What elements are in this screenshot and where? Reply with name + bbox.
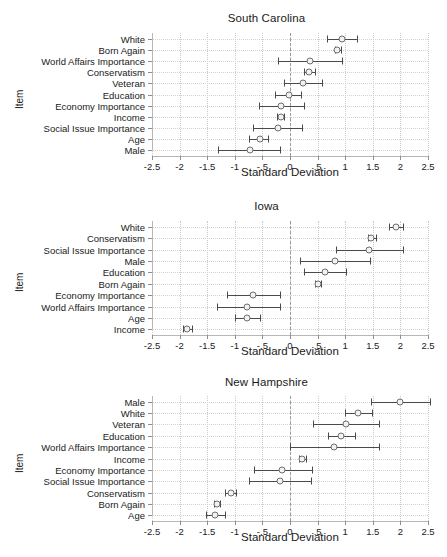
x-axis-tick-label: -2.5 <box>132 161 172 172</box>
confidence-interval-cap <box>259 102 260 109</box>
gridline-vertical <box>428 221 429 335</box>
confidence-interval-cap <box>249 478 250 485</box>
panel-title-text: South Carolina <box>228 12 305 24</box>
y-axis-line <box>152 396 153 515</box>
gridline-vertical <box>400 396 401 521</box>
data-point-marker <box>277 113 284 120</box>
x-axis-tick-label: -1 <box>215 526 255 537</box>
x-axis-label: Standard Deviation <box>152 166 428 178</box>
x-axis-line <box>152 521 428 522</box>
x-axis-tick <box>400 521 401 525</box>
gridline-vertical <box>428 396 429 521</box>
panel-title: Iowa <box>0 200 447 212</box>
plot-area: MaleWhiteVeteranEducationWorld Affairs I… <box>152 396 428 521</box>
panel-title: New Hampshire <box>0 376 447 388</box>
gridline-horizontal <box>152 150 428 151</box>
confidence-interval-cap <box>301 91 302 98</box>
y-axis-tick <box>148 413 152 414</box>
gridline-vertical <box>290 221 291 335</box>
gridline-horizontal <box>152 72 428 73</box>
data-point-marker <box>299 80 306 87</box>
y-axis-tick <box>148 295 152 296</box>
y-axis-tick <box>148 72 152 73</box>
confidence-interval-cap <box>372 410 373 417</box>
y-axis-tick <box>148 481 152 482</box>
zero-reference-line <box>290 396 291 521</box>
confidence-interval-cap <box>284 80 285 87</box>
x-axis-tick <box>345 521 346 525</box>
chart-panel: IowaItemWhiteConservatismSocial Issue Im… <box>0 0 447 557</box>
gridline-vertical <box>235 221 236 335</box>
confidence-interval-bar <box>259 106 304 107</box>
x-axis-tick <box>318 521 319 525</box>
y-axis-tick-label: Male <box>0 255 145 266</box>
confidence-interval-cap <box>379 421 380 428</box>
confidence-interval-cap <box>280 292 281 299</box>
y-axis-tick <box>148 50 152 51</box>
x-axis-tick-label: 0 <box>270 526 310 537</box>
x-axis-tick <box>290 335 291 339</box>
x-axis-tick-label: -1.5 <box>187 161 227 172</box>
gridline-horizontal <box>152 318 428 319</box>
gridline-horizontal <box>152 284 428 285</box>
gridline-vertical <box>373 396 374 521</box>
panel-title-text: Iowa <box>254 200 279 212</box>
x-axis-tick-label: -.5 <box>242 161 282 172</box>
confidence-interval-bar <box>206 515 225 516</box>
x-axis-tick-label: 1.5 <box>353 340 393 351</box>
confidence-interval-cap <box>322 80 323 87</box>
x-axis-tick-label: 0 <box>270 340 310 351</box>
confidence-interval-cap <box>430 398 431 405</box>
y-axis-tick-label: White <box>0 408 145 419</box>
y-axis-tick-label: Veteran <box>0 78 145 89</box>
chart-panel: New HampshireItemMaleWhiteVeteranEducati… <box>0 0 447 557</box>
confidence-interval-bar <box>225 493 236 494</box>
confidence-interval-cap <box>315 280 316 287</box>
x-axis-tick-label: -2 <box>160 161 200 172</box>
x-axis-tick-label: -.5 <box>242 340 282 351</box>
confidence-interval-cap <box>235 314 236 321</box>
y-axis-tick-label: Age <box>0 510 145 521</box>
gridline-vertical <box>345 33 346 156</box>
data-point-marker <box>392 223 399 230</box>
y-axis-tick <box>148 250 152 251</box>
confidence-interval-cap <box>253 125 254 132</box>
y-axis-tick <box>148 95 152 96</box>
confidence-interval-cap <box>355 432 356 439</box>
x-axis-tick-label: 2.5 <box>408 340 447 351</box>
y-axis-tick-label: Income <box>0 111 145 122</box>
confidence-interval-cap <box>315 69 316 76</box>
data-point-marker <box>368 235 375 242</box>
gridline-horizontal <box>152 295 428 296</box>
data-point-marker <box>334 46 341 53</box>
y-axis-tick-label: White <box>0 221 145 232</box>
y-axis-tick-label: Education <box>0 430 145 441</box>
data-point-marker <box>184 326 191 333</box>
gridline-horizontal <box>152 95 428 96</box>
gridline-horizontal <box>152 61 428 62</box>
x-axis-tick <box>235 156 236 160</box>
confidence-interval-cap <box>403 246 404 253</box>
y-axis-tick <box>148 83 152 84</box>
x-axis-tick-label: 1 <box>325 161 365 172</box>
x-axis-tick <box>373 335 374 339</box>
confidence-interval-bar <box>183 329 192 330</box>
data-point-marker <box>213 500 220 507</box>
confidence-interval-bar <box>389 227 403 228</box>
y-axis-tick <box>148 307 152 308</box>
data-point-marker <box>299 455 306 462</box>
confidence-interval-cap <box>368 235 369 242</box>
gridline-vertical <box>152 33 153 156</box>
gridline-vertical <box>262 221 263 335</box>
gridline-vertical <box>235 396 236 521</box>
confidence-interval-cap <box>304 269 305 276</box>
y-axis-line <box>152 33 153 150</box>
confidence-interval-bar <box>290 447 379 448</box>
x-axis-tick <box>345 335 346 339</box>
confidence-interval-bar <box>299 459 306 460</box>
gridline-vertical <box>262 33 263 156</box>
y-axis-tick <box>148 150 152 151</box>
confidence-interval-cap <box>346 269 347 276</box>
x-axis-line <box>152 335 428 336</box>
y-axis-tick-label: Born Again <box>0 498 145 509</box>
